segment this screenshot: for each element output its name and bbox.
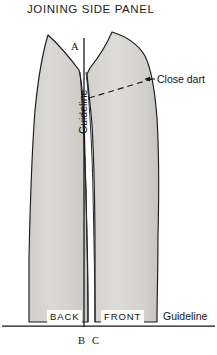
panel-label-back: BACK	[47, 310, 82, 323]
panel-label-front: FRONT	[101, 310, 144, 323]
pattern-diagram	[0, 0, 217, 355]
point-label-a: A	[71, 41, 79, 52]
point-label-c: C	[92, 335, 99, 346]
horizontal-guideline-label: Guideline	[163, 310, 207, 322]
point-label-b: B	[78, 335, 85, 346]
front-panel-shape	[87, 32, 159, 322]
back-panel-shape	[29, 35, 88, 322]
close-dart-label: Close dart	[157, 73, 205, 85]
joining-side-panel-figure: JOINING SIDE PANEL	[0, 0, 217, 355]
vertical-guideline-label: Guideline	[77, 90, 89, 134]
